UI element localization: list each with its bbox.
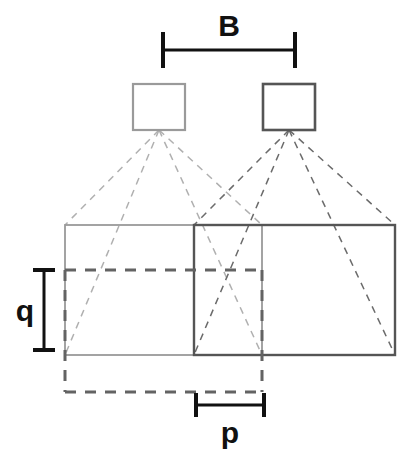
right-camera-ray-0 bbox=[194, 130, 289, 225]
left-camera-ray-3 bbox=[159, 130, 262, 355]
diagram-canvas: B q p bbox=[0, 0, 418, 467]
right-camera[interactable] bbox=[263, 84, 315, 130]
shifted-footprint-group bbox=[65, 270, 262, 392]
right-image-plane bbox=[194, 225, 395, 355]
disparity-dimension-group bbox=[196, 393, 264, 417]
depth-dimension-group bbox=[33, 270, 55, 350]
depth-label: q bbox=[16, 294, 34, 327]
left-camera[interactable] bbox=[133, 84, 185, 130]
left-camera-ray-bundle bbox=[65, 130, 262, 355]
camera-group bbox=[133, 84, 315, 130]
right-camera-ray-1 bbox=[194, 130, 289, 355]
footprint-group bbox=[65, 225, 395, 355]
left-camera-ray-1 bbox=[65, 130, 159, 355]
right-camera-ray-2 bbox=[289, 130, 395, 225]
left-image-plane bbox=[65, 225, 262, 355]
left-camera-ray-0 bbox=[65, 130, 159, 225]
stereo-geometry-diagram: B q p bbox=[0, 0, 418, 467]
right-camera-ray-3 bbox=[289, 130, 395, 355]
disparity-label: p bbox=[221, 416, 239, 449]
baseline-label: B bbox=[218, 9, 240, 42]
left-camera-ray-2 bbox=[159, 130, 262, 225]
right-camera-ray-bundle bbox=[194, 130, 395, 355]
